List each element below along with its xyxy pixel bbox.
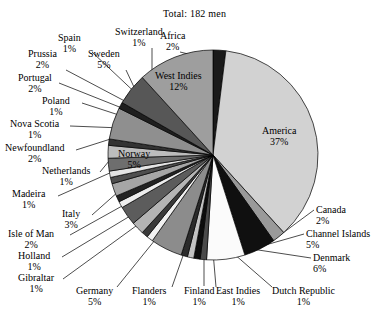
slice-callout-label: Holland1%	[18, 250, 50, 272]
slice-callout-label: Finland1%	[184, 285, 215, 307]
slice-label-percent: 1%	[132, 296, 166, 307]
slice-label-name: Germany	[76, 285, 113, 296]
slice-callout-label: Denmark6%	[313, 252, 350, 274]
slice-callout-label: Germany5%	[76, 285, 113, 307]
slice-label-percent: 6%	[313, 263, 350, 274]
slice-label-name: East Indies	[216, 285, 260, 296]
slice-label-name: Finland	[184, 285, 215, 296]
slice-label-name: Prussia	[28, 48, 57, 59]
slice-label-name: Poland	[42, 95, 70, 106]
slice-label-percent: 5%	[306, 239, 370, 250]
slice-label-percent: 2%	[8, 239, 54, 250]
slice-label-name: Portugal	[18, 72, 52, 83]
slice-callout-label: Switzerland1%	[115, 26, 163, 48]
slice-label-percent: 5%	[118, 159, 150, 170]
slice-label-percent: 1%	[10, 129, 59, 140]
slice-callout-label: Gibraltar1%	[18, 272, 54, 294]
slice-callout-label: Sweden5%	[88, 48, 120, 70]
slice-callout-label: Spain1%	[58, 32, 81, 54]
slice-label-percent: 37%	[262, 136, 296, 147]
slice-label-percent: 2%	[160, 41, 186, 52]
slice-label-percent: 2%	[18, 83, 52, 94]
slice-label-percent: 1%	[216, 296, 260, 307]
slice-label-name: Gibraltar	[18, 272, 54, 283]
slice-callout-label: Madeira1%	[12, 188, 45, 210]
slice-callout-label: Isle of Man2%	[8, 228, 54, 250]
slice-callout-label: Nova Scotia1%	[10, 118, 59, 140]
slice-callout-label: Canada2%	[316, 204, 346, 226]
slice-label-name: Sweden	[88, 48, 120, 59]
slice-label-name: Holland	[18, 250, 50, 261]
slice-label-percent: 1%	[58, 43, 81, 54]
slice-callout-label: Prussia2%	[28, 48, 57, 70]
slice-label-name: America	[262, 125, 296, 136]
pie-chart-figure: Total: 182 men America37%West Indies12%N…	[0, 0, 389, 323]
slice-callout-label: Flanders1%	[132, 285, 166, 307]
slice-inside-label: West Indies12%	[155, 70, 202, 92]
slice-label-percent: 5%	[88, 59, 120, 70]
slice-label-percent: 5%	[76, 296, 113, 307]
slice-label-percent: 2%	[316, 215, 346, 226]
slice-label-percent: 1%	[42, 176, 90, 187]
slice-callout-label: Channel Islands5%	[306, 228, 370, 250]
slice-label-percent: 1%	[115, 37, 163, 48]
slice-label-percent: 1%	[18, 261, 50, 272]
slice-callout-label: Portugal2%	[18, 72, 52, 94]
slice-label-name: Denmark	[313, 252, 350, 263]
slice-callout-label: Netherlands1%	[42, 165, 90, 187]
slice-label-name: West Indies	[155, 70, 202, 81]
slice-label-name: Flanders	[132, 285, 166, 296]
slice-callout-label: Dutch Republic1%	[272, 285, 335, 307]
slice-callout-label: Poland1%	[42, 95, 70, 117]
slice-callout-label: Italy3%	[62, 208, 80, 230]
slice-label-name: Switzerland	[115, 26, 163, 37]
slice-label-percent: 2%	[5, 153, 64, 164]
slice-label-percent: 1%	[12, 199, 45, 210]
slice-label-name: Newfoundland	[5, 142, 64, 153]
slice-label-percent: 1%	[42, 106, 70, 117]
slice-label-percent: 3%	[62, 219, 80, 230]
slice-label-name: Netherlands	[42, 165, 90, 176]
slice-inside-label: Norway5%	[118, 148, 150, 170]
slice-label-name: Dutch Republic	[272, 285, 335, 296]
slice-callout-label: East Indies1%	[216, 285, 260, 307]
slice-callout-label: Newfoundland2%	[5, 142, 64, 164]
slice-label-name: Norway	[118, 148, 150, 159]
slice-label-percent: 1%	[272, 296, 335, 307]
slice-label-percent: 1%	[184, 296, 215, 307]
slice-label-name: Channel Islands	[306, 228, 370, 239]
slice-label-name: Nova Scotia	[10, 118, 59, 129]
slice-label-percent: 1%	[18, 283, 54, 294]
slice-label-name: Italy	[62, 208, 80, 219]
slice-label-name: Isle of Man	[8, 228, 54, 239]
slice-label-name: Spain	[58, 32, 81, 43]
slice-label-name: Canada	[316, 204, 346, 215]
slice-label-name: Madeira	[12, 188, 45, 199]
slice-label-percent: 12%	[155, 81, 202, 92]
slice-label-percent: 2%	[28, 59, 57, 70]
slice-callout-label: Africa2%	[160, 30, 186, 52]
slice-label-name: Africa	[160, 30, 186, 41]
slice-inside-label: America37%	[262, 125, 296, 147]
